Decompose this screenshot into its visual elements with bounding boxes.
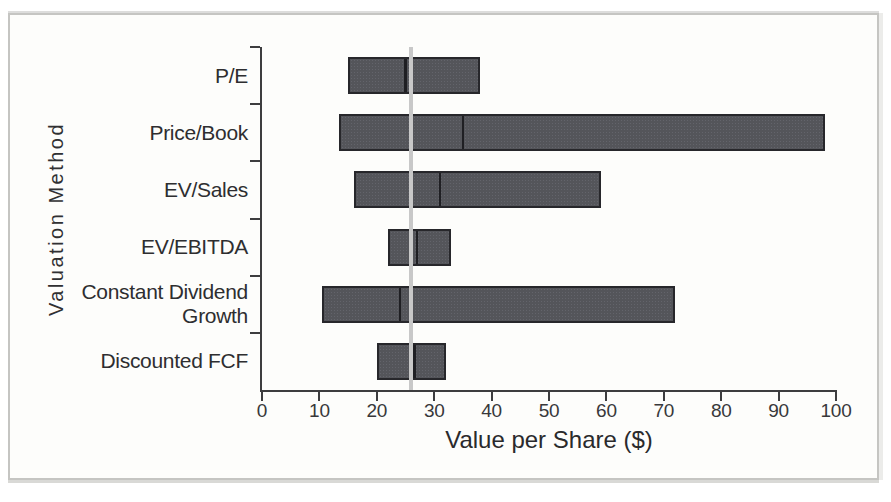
- category-label: EV/Sales: [10, 178, 248, 202]
- y-axis-tick: [250, 218, 260, 220]
- category-label: Discounted FCF: [10, 349, 248, 373]
- midpoint-tick: [404, 59, 407, 92]
- valuation-range-bar: [322, 286, 675, 323]
- midpoint-tick: [439, 173, 442, 206]
- midpoint-tick: [399, 288, 402, 321]
- x-axis-tick-label: 40: [481, 400, 502, 422]
- x-axis-tick-label: 80: [711, 400, 732, 422]
- y-axis-tick: [250, 332, 260, 334]
- y-axis-tick: [250, 160, 260, 162]
- valuation-range-bar: [348, 57, 480, 94]
- x-axis-tick-label: 10: [309, 400, 330, 422]
- valuation-range-bar: [354, 171, 601, 208]
- x-axis-tick-label: 20: [367, 400, 388, 422]
- valuation-chart-figure: Valuation Method P/EPrice/BookEV/SalesEV…: [8, 13, 879, 480]
- y-axis-tick: [250, 103, 260, 105]
- x-axis-tick-label: 90: [768, 400, 789, 422]
- category-label: Constant Dividend Growth: [10, 280, 248, 328]
- x-axis-title: Value per Share ($): [262, 426, 836, 454]
- midpoint-tick: [416, 231, 419, 264]
- x-axis-tick-label: 60: [596, 400, 617, 422]
- midpoint-tick: [462, 116, 465, 149]
- x-axis-tick-label: 70: [654, 400, 675, 422]
- scanned-page: Valuation Method P/EPrice/BookEV/SalesEV…: [0, 0, 891, 502]
- category-label: EV/EBITDA: [10, 235, 248, 259]
- category-label: P/E: [10, 64, 248, 88]
- category-label: Price/Book: [10, 121, 248, 145]
- share-price-reference-line: [409, 47, 413, 390]
- y-axis-tick: [250, 46, 260, 48]
- x-axis-tick-label: 100: [821, 400, 852, 422]
- midpoint-tick: [413, 345, 416, 378]
- plot-area: [260, 47, 836, 392]
- y-axis-tick: [250, 275, 260, 277]
- x-axis-tick-label: 50: [539, 400, 560, 422]
- valuation-range-bar: [388, 229, 451, 266]
- x-axis-tick-label: 0: [257, 400, 267, 422]
- x-axis-tick-label: 30: [424, 400, 445, 422]
